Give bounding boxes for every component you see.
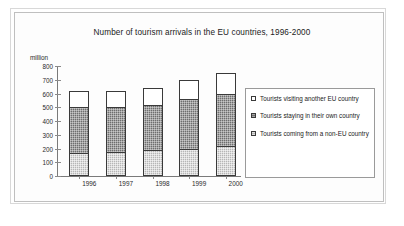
y-tick-mark <box>55 107 61 108</box>
x-tick-label: 1996 <box>69 180 109 187</box>
y-tick-mark <box>55 149 61 150</box>
bar-segment <box>143 105 163 150</box>
y-tick-label: 0 <box>49 173 53 180</box>
bar-segment <box>69 153 89 176</box>
bar-segment <box>179 80 199 99</box>
y-tick-label: 100 <box>42 159 53 166</box>
stacked-bar <box>106 91 126 176</box>
bar-segment <box>69 91 89 107</box>
x-axis-line <box>57 176 241 177</box>
y-tick-mark <box>55 121 61 122</box>
y-tick-label: 200 <box>42 145 53 152</box>
y-tick-mark <box>55 135 61 136</box>
x-tick-label: 1997 <box>106 180 146 187</box>
bar-segment <box>106 152 126 176</box>
legend-label: Tourists visiting another EU country <box>260 95 359 103</box>
bar-segment <box>216 94 236 147</box>
y-tick-mark <box>55 94 61 95</box>
stacked-bar <box>179 80 199 176</box>
chart-title: Number of tourism arrivals in the EU cou… <box>0 28 404 37</box>
legend-swatch-icon <box>251 113 256 118</box>
x-tick-mark <box>79 176 80 179</box>
legend-item: Tourists coming from a non-EU country <box>251 130 369 138</box>
x-tick-label: 1998 <box>143 180 183 187</box>
bar-segment <box>69 107 89 152</box>
legend-swatch-icon <box>251 131 256 136</box>
chart-legend: Tourists visiting another EU countryTour… <box>245 88 375 178</box>
y-tick-mark <box>55 80 61 81</box>
bar-segment <box>216 73 236 94</box>
y-tick-label: 300 <box>42 131 53 138</box>
y-tick-mark <box>55 66 61 67</box>
y-tick-label: 800 <box>42 63 53 70</box>
bar-segment <box>143 150 163 176</box>
y-tick-label: 600 <box>42 90 53 97</box>
plot-area: 0100200300400500600700800 19961997199819… <box>57 66 240 176</box>
bar-segment <box>106 91 126 107</box>
legend-label: Tourists coming from a non-EU country <box>260 130 369 138</box>
legend-label: Tourists staying in their own country <box>260 112 360 120</box>
y-tick-label: 500 <box>42 104 53 111</box>
x-tick-mark <box>153 176 154 179</box>
legend-item: Tourists staying in their own country <box>251 112 369 120</box>
bar-segment <box>106 107 126 152</box>
y-tick-mark <box>55 162 61 163</box>
stacked-bar <box>216 73 236 176</box>
x-tick-mark <box>116 176 117 179</box>
x-tick-mark <box>226 176 227 179</box>
y-tick-label: 700 <box>42 76 53 83</box>
chart-figure: Number of tourism arrivals in the EU cou… <box>0 0 404 226</box>
bar-segment <box>216 146 236 176</box>
y-tick-mark <box>55 176 61 177</box>
y-axis-unit-label: million <box>30 54 48 61</box>
x-tick-label: 1999 <box>179 180 219 187</box>
bar-segment <box>179 149 199 177</box>
x-tick-mark <box>189 176 190 179</box>
legend-swatch-icon <box>251 96 256 101</box>
x-tick-label: 2000 <box>216 180 256 187</box>
bar-segment <box>179 99 199 149</box>
stacked-bar <box>69 91 89 176</box>
bar-segment <box>143 88 163 105</box>
legend-item: Tourists visiting another EU country <box>251 95 369 103</box>
y-tick-label: 400 <box>42 118 53 125</box>
stacked-bar <box>143 88 163 176</box>
